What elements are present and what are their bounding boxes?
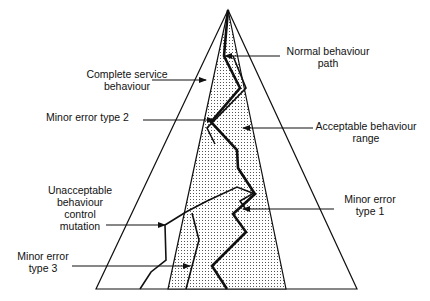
label-minor-error-2: Minor error type 2 — [46, 111, 142, 123]
label-line: behaviour — [45, 196, 115, 208]
label-minor-error-3: Minor error type 3 — [12, 250, 74, 274]
label-line: type 3 — [12, 262, 74, 274]
label-line: behaviour — [79, 80, 175, 92]
label-line: Minor error — [334, 193, 406, 205]
label-line: Complete service — [79, 68, 175, 80]
label-line: Minor error — [12, 250, 74, 262]
label-line: type 1 — [334, 205, 406, 217]
label-normal-path: Normal behaviour path — [282, 45, 374, 69]
label-line: Unacceptable — [45, 184, 115, 196]
label-line: range — [314, 132, 418, 144]
label-line: Acceptable behaviour — [314, 120, 418, 132]
label-complete-service: Complete service behaviour — [79, 68, 175, 92]
label-unacceptable-mutation: Unacceptable behaviour control mutation — [45, 184, 115, 232]
label-line: Normal behaviour — [282, 45, 374, 57]
label-acceptable-range: Acceptable behaviour range — [314, 120, 418, 144]
label-line: Minor error type 2 — [46, 111, 142, 123]
label-line: control — [45, 208, 115, 220]
label-line: path — [282, 57, 374, 69]
label-minor-error-1: Minor error type 1 — [334, 193, 406, 217]
label-line: mutation — [45, 220, 115, 232]
